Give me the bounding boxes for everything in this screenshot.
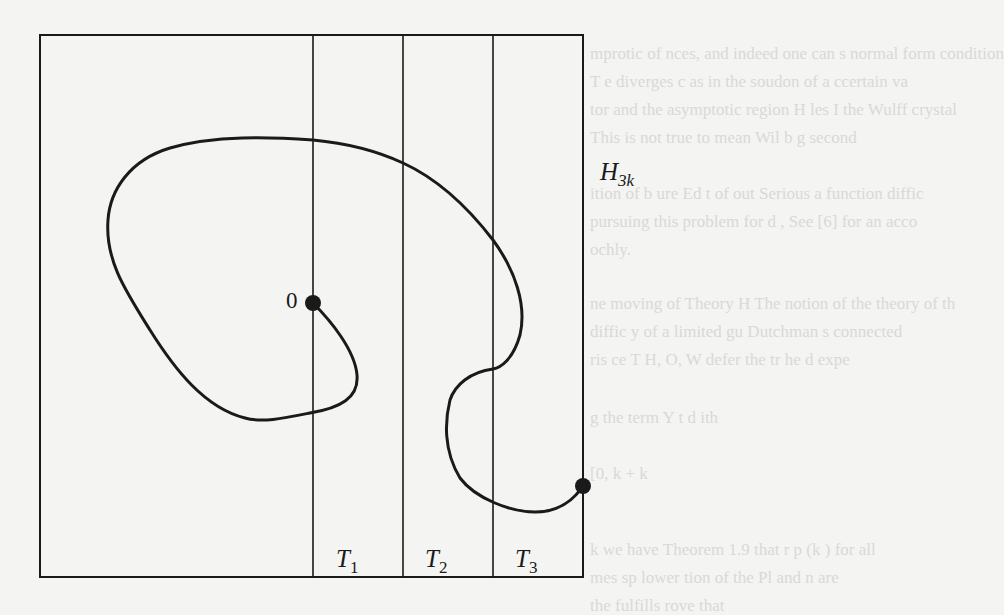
strip-label-t1: T1 <box>336 545 358 578</box>
strip-label-sub: 3 <box>529 558 538 577</box>
end-point <box>575 478 591 494</box>
strip-label-t3: T3 <box>515 545 537 578</box>
origin-label: 0 <box>286 288 298 314</box>
strip-label-main: T <box>515 545 529 572</box>
region-label-sub: 3k <box>618 171 634 190</box>
strip-label-sub: 1 <box>350 558 359 577</box>
strip-label-sub: 2 <box>439 558 448 577</box>
region-label-h3k: H3k <box>600 158 634 191</box>
region-label-main: H <box>600 158 618 185</box>
strip-label-main: T <box>425 545 439 572</box>
strip-label-main: T <box>336 545 350 572</box>
strip-label-t2: T2 <box>425 545 447 578</box>
curve-path <box>108 138 583 512</box>
origin-point <box>305 295 321 311</box>
